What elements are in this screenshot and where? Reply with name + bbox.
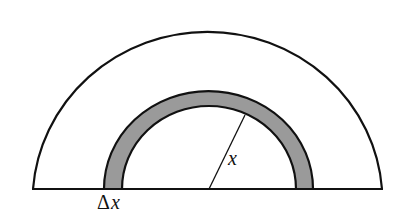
thickness-variable: x: [110, 191, 120, 213]
diagram-canvas: x Δx: [0, 0, 408, 223]
radius-line: [209, 115, 245, 189]
thickness-label: Δx: [97, 191, 120, 213]
radius-label: x: [227, 147, 237, 169]
outer-semicircle: [33, 32, 382, 189]
delta-symbol: Δ: [97, 191, 110, 213]
shaded-ring-band: [104, 91, 313, 189]
